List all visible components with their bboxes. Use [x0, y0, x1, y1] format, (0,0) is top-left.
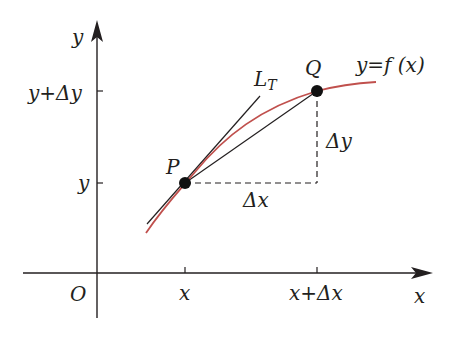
origin-label: O	[70, 282, 86, 306]
delta-y-label: Δy	[325, 129, 352, 153]
tangent-label-subscript: T	[267, 77, 278, 93]
secant-line	[185, 91, 317, 183]
tangent-label: LT	[253, 67, 278, 93]
x-axis-label: x	[414, 284, 425, 308]
tick-label-y-plus-dy: y+Δy	[27, 81, 83, 105]
tangent-label-main: L	[253, 67, 267, 91]
point-q-label: Q	[305, 56, 321, 80]
derivative-diagram: y x O y+Δy y x x+Δx P Q LT y=f (x) Δx Δy	[0, 0, 449, 346]
point-p-label: P	[165, 155, 180, 179]
tick-label-y: y	[77, 171, 90, 195]
curve-label: y=f (x)	[355, 53, 425, 77]
y-axis-label: y	[71, 25, 84, 49]
delta-x-label: Δx	[242, 188, 269, 212]
tick-label-x: x	[179, 281, 190, 305]
tick-label-x-plus-dx: x+Δx	[289, 281, 343, 305]
point-p	[179, 177, 191, 189]
point-q	[311, 85, 323, 97]
